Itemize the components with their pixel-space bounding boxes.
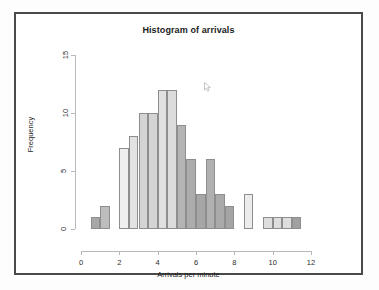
x-tick-label: 6 bbox=[194, 258, 198, 267]
y-tick-mark bbox=[71, 113, 75, 114]
y-tick-mark bbox=[71, 229, 75, 230]
x-tick-label: 2 bbox=[117, 258, 121, 267]
y-tick-mark bbox=[71, 55, 75, 56]
x-tick-label: 10 bbox=[268, 258, 276, 267]
plot-window-frame: Histogram of arrivals 024681012 051015 A… bbox=[14, 12, 363, 275]
y-tick-label: 15 bbox=[61, 51, 70, 59]
histogram-bar bbox=[158, 90, 168, 229]
y-axis-line bbox=[75, 55, 76, 229]
x-tick-mark bbox=[119, 251, 120, 255]
x-tick-mark bbox=[273, 251, 274, 255]
y-axis-title: Frequency bbox=[26, 85, 35, 185]
histogram-bar bbox=[167, 90, 177, 229]
histogram-bar bbox=[91, 217, 101, 229]
mouse-cursor-icon bbox=[204, 82, 212, 92]
y-tick-label: 0 bbox=[59, 227, 68, 231]
histogram-bars bbox=[81, 55, 311, 229]
histogram-bar bbox=[282, 217, 292, 229]
x-axis-title: Arrivals per minute bbox=[16, 270, 361, 279]
histogram-bar bbox=[263, 217, 273, 229]
x-tick-mark bbox=[196, 251, 197, 255]
plot-canvas: Histogram of arrivals 024681012 051015 A… bbox=[16, 14, 361, 273]
x-tick-mark bbox=[234, 251, 235, 255]
x-tick-label: 12 bbox=[307, 258, 315, 267]
histogram-bar bbox=[225, 206, 235, 229]
histogram-bar bbox=[139, 113, 149, 229]
y-tick-label: 10 bbox=[61, 109, 70, 117]
histogram-bar bbox=[129, 136, 139, 229]
x-tick-label: 4 bbox=[156, 258, 160, 267]
histogram-bar bbox=[215, 194, 225, 229]
y-tick-mark bbox=[71, 171, 75, 172]
x-tick-mark bbox=[158, 251, 159, 255]
histogram-bar bbox=[196, 194, 206, 229]
histogram-bar bbox=[148, 113, 158, 229]
histogram-bar bbox=[244, 194, 254, 229]
histogram-bar bbox=[292, 217, 302, 229]
page-title: Histogram of arrivals bbox=[16, 25, 361, 35]
histogram-bar bbox=[100, 206, 110, 229]
x-tick-label: 8 bbox=[232, 258, 236, 267]
histogram-bar bbox=[186, 159, 196, 229]
histogram-bar bbox=[177, 125, 187, 229]
histogram-bar bbox=[273, 217, 283, 229]
histogram-bar bbox=[119, 148, 129, 229]
x-tick-mark bbox=[311, 251, 312, 255]
histogram-bar bbox=[206, 159, 216, 229]
screenshot-root: Histogram of arrivals 024681012 051015 A… bbox=[0, 0, 379, 290]
y-tick-label: 5 bbox=[59, 169, 68, 173]
x-tick-mark bbox=[81, 251, 82, 255]
x-tick-label: 0 bbox=[79, 258, 83, 267]
